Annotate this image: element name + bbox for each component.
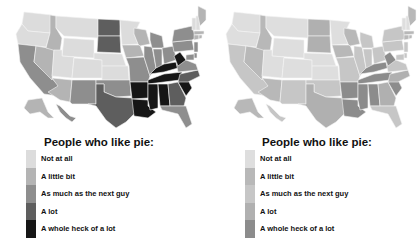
state-vt bbox=[402, 18, 406, 30]
state-fl bbox=[160, 106, 192, 128]
state-wy bbox=[272, 38, 304, 58]
state-ks bbox=[312, 66, 339, 80]
legend-swatch bbox=[245, 150, 255, 168]
legend-swatch bbox=[245, 168, 255, 186]
state-nd bbox=[98, 19, 120, 36]
state-me bbox=[198, 6, 206, 26]
state-hi bbox=[56, 104, 76, 122]
legend-label: Not at all bbox=[41, 154, 73, 163]
state-vt bbox=[192, 18, 196, 30]
state-ct bbox=[404, 35, 409, 40]
legend-label: Not at all bbox=[260, 154, 292, 163]
state-de bbox=[194, 53, 197, 58]
state-ri bbox=[409, 35, 412, 39]
legend-label: A little bit bbox=[260, 172, 294, 181]
map-panel-left: People who like pie: Not at all A little… bbox=[0, 0, 210, 248]
state-ma bbox=[404, 31, 414, 35]
state-ma bbox=[194, 31, 204, 35]
state-ia bbox=[122, 45, 144, 58]
state-mi bbox=[150, 32, 164, 48]
state-nj bbox=[194, 42, 198, 52]
us-choropleth-map-right bbox=[210, 0, 420, 132]
state-mi bbox=[360, 32, 374, 48]
legend-swatch bbox=[26, 203, 36, 221]
legend-swatch bbox=[245, 220, 255, 238]
legend-swatch bbox=[245, 185, 255, 203]
legend-swatch bbox=[26, 168, 36, 186]
legend-swatch bbox=[26, 220, 36, 238]
legend-title: People who like pie: bbox=[262, 136, 372, 148]
state-hi bbox=[266, 104, 286, 122]
legend-label: As much as the next guy bbox=[260, 189, 348, 198]
state-nm bbox=[70, 80, 96, 104]
state-ia bbox=[332, 45, 354, 58]
state-sd bbox=[97, 36, 121, 53]
state-sd bbox=[307, 36, 331, 53]
legend-label: A whole heck of a lot bbox=[41, 224, 115, 233]
state-ak bbox=[234, 98, 264, 118]
state-de bbox=[404, 53, 407, 58]
state-wy bbox=[62, 38, 94, 58]
legend-swatch bbox=[26, 185, 36, 203]
state-ak bbox=[24, 98, 54, 118]
legend-label: As much as the next guy bbox=[41, 189, 129, 198]
state-md bbox=[396, 54, 404, 60]
state-nm bbox=[280, 80, 306, 104]
legend-label: A whole heck of a lot bbox=[260, 224, 334, 233]
state-ri bbox=[199, 35, 202, 39]
legend-label: A little bit bbox=[41, 172, 75, 181]
us-choropleth-map-left bbox=[0, 0, 210, 132]
state-co bbox=[282, 58, 312, 78]
state-ar bbox=[130, 82, 148, 99]
state-ar bbox=[340, 82, 358, 99]
state-nd bbox=[308, 19, 330, 36]
legend-label: A lot bbox=[41, 207, 57, 216]
state-md bbox=[186, 54, 194, 60]
state-fl bbox=[370, 106, 402, 128]
state-me bbox=[408, 6, 416, 26]
legend-label: A lot bbox=[260, 207, 276, 216]
legend-title: People who like pie: bbox=[44, 136, 154, 148]
legend-swatch bbox=[26, 150, 36, 168]
state-co bbox=[72, 58, 102, 78]
state-ct bbox=[194, 35, 199, 40]
state-ks bbox=[102, 66, 129, 80]
state-ms bbox=[358, 84, 368, 110]
legend-swatch bbox=[245, 203, 255, 221]
state-mt bbox=[266, 16, 308, 38]
state-nj bbox=[404, 42, 408, 52]
map-panel-right: People who like pie: Not at all A little… bbox=[210, 0, 420, 248]
state-ms bbox=[148, 84, 158, 110]
state-mt bbox=[56, 16, 98, 38]
